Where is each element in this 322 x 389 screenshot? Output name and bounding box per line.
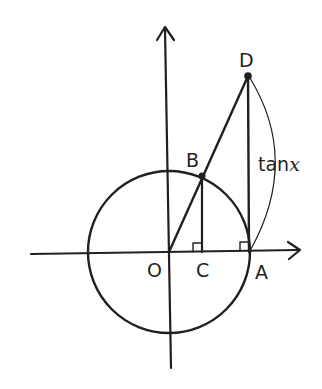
y-axis bbox=[165, 29, 171, 368]
label-D: D bbox=[239, 49, 254, 71]
label-A: A bbox=[255, 261, 268, 283]
unit-circle-diagram: D B O C A tanx bbox=[0, 0, 322, 389]
label-C: C bbox=[196, 259, 209, 281]
point-B-dot bbox=[199, 173, 206, 180]
tan-variable: x bbox=[289, 153, 300, 175]
tan-prefix: tan bbox=[258, 153, 289, 175]
segment-OD bbox=[169, 76, 248, 252]
x-axis bbox=[31, 250, 298, 254]
point-D-dot bbox=[244, 72, 252, 80]
label-O: O bbox=[147, 259, 162, 281]
label-tan-x: tanx bbox=[258, 153, 300, 175]
label-B: B bbox=[186, 149, 199, 171]
right-angle-mark-A bbox=[240, 242, 248, 251]
segment-DA bbox=[248, 76, 249, 252]
